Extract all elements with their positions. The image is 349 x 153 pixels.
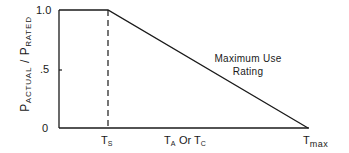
tc-main: T: [194, 134, 201, 146]
annotation-line1: Maximum Use: [208, 52, 288, 65]
chart-plot: [0, 0, 349, 153]
tmax-main: T: [303, 134, 310, 146]
or-text: Or: [176, 134, 194, 146]
ylabel-sep: / P: [18, 47, 32, 67]
annotation-max-use-rating: Maximum Use Rating: [208, 52, 288, 78]
y-tick-label-0: 0: [42, 123, 48, 134]
y-axis-label: PACTUAL / PRATED: [18, 16, 33, 111]
tmax-sub: max: [310, 139, 329, 149]
x-tick-label-tmax: Tmax: [303, 135, 328, 150]
ts-main: T: [101, 134, 108, 146]
ta-main: T: [164, 134, 171, 146]
ylabel-sub-actual: ACTUAL: [24, 67, 33, 103]
x-tick-label-ts: TS: [101, 135, 113, 149]
ylabel-p: P: [18, 103, 32, 112]
x-axis-label: TA Or TC: [164, 135, 206, 149]
y-tick-label-1: 1.0: [36, 5, 51, 16]
annotation-line2: Rating: [208, 65, 288, 78]
y-tick-label-05: .5: [40, 64, 49, 75]
ts-sub: S: [108, 140, 113, 147]
ylabel-sub-rated: RATED: [24, 16, 33, 47]
tc-sub: C: [201, 140, 207, 147]
